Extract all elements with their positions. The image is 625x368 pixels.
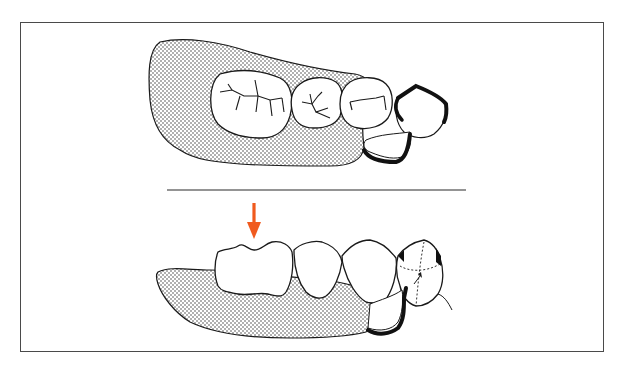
figure-canvas: Dental illustration: removable partial d… — [0, 0, 625, 368]
lateral-molar — [215, 242, 293, 296]
occlusal-premolar-1 — [291, 78, 342, 128]
force-arrow-icon — [247, 203, 261, 239]
dental-diagram — [0, 0, 625, 368]
lateral-root-line — [438, 294, 452, 310]
lateral-view — [157, 203, 453, 338]
occlusal-molar — [211, 71, 292, 138]
occlusal-view — [149, 40, 446, 166]
occlusal-premolar-2 — [340, 78, 392, 129]
